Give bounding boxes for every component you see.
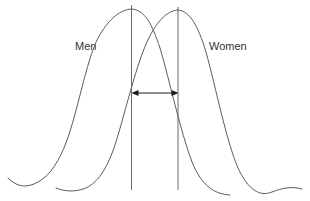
distribution-chart-svg [0, 0, 310, 201]
mean-gap-arrow-head-right [172, 90, 179, 96]
women-curve-label: Women [209, 41, 247, 52]
distribution-figure: Men Women [0, 0, 310, 201]
men-curve-label: Men [75, 41, 96, 52]
mean-gap-arrow-head-left [132, 90, 139, 96]
men-distribution-curve [8, 9, 230, 195]
women-distribution-curve [56, 10, 302, 194]
